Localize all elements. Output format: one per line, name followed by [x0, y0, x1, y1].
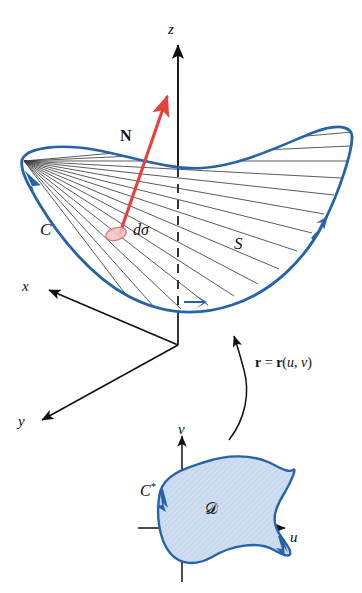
v-axis-label: v [178, 422, 185, 437]
u-axis-label: u [290, 530, 298, 545]
boundary-curve-label: C [40, 221, 51, 238]
domain-label: 𝒟 [205, 501, 218, 517]
figure-root: z x y N C S dσ r = r(u, v) u v 𝒟 C* [0, 0, 362, 593]
x-axis-label: x [22, 279, 29, 294]
mapping-comma: , [294, 355, 301, 370]
domain-boundary-letter: C [140, 482, 151, 499]
mapping-equation-label: r = r(u, v) [255, 356, 312, 370]
normal-vector-label: N [120, 128, 132, 144]
mapping-paren-close: ) [307, 355, 312, 370]
domain-boundary-label: C* [140, 481, 156, 499]
mapping-arg-u: u [287, 355, 294, 370]
mapping-equals: = [261, 355, 276, 370]
z-axis-label: z [168, 22, 174, 37]
surface-label: S [234, 235, 243, 252]
domain-boundary-star: * [151, 480, 157, 492]
area-element-label: dσ [133, 222, 149, 238]
stokes-theorem-diagram [0, 0, 362, 593]
y-axis-label: y [18, 414, 25, 429]
